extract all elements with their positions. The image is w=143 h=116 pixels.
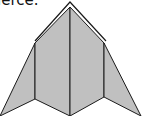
left-wing-panel	[0, 43, 35, 116]
right-body-panel	[70, 7, 104, 116]
right-wing-panel	[104, 43, 141, 116]
left-body-panel	[35, 7, 70, 116]
paper-airplane-diagram	[0, 0, 143, 116]
